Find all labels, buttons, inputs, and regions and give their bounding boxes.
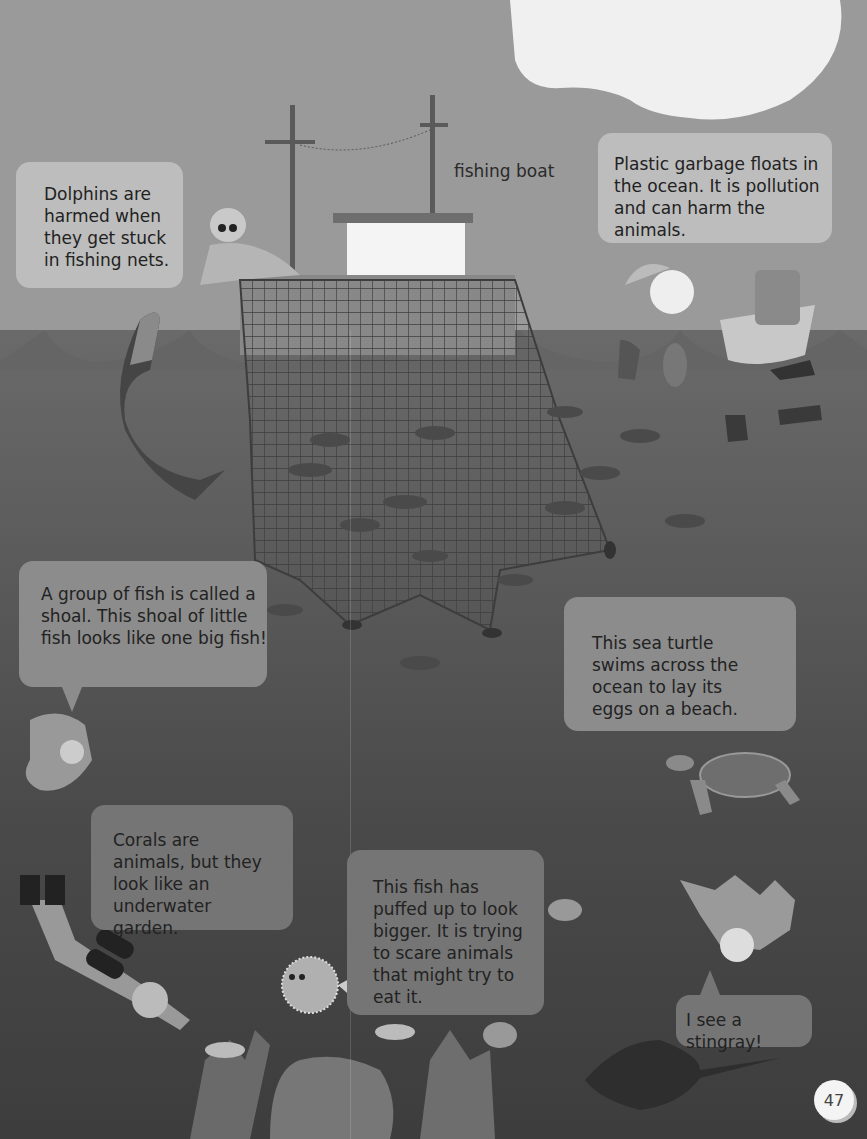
fishing-boat-label: fishing boat: [454, 161, 554, 181]
page-fold: [350, 330, 351, 1139]
stingray-bubble-tail: [700, 970, 720, 995]
plastic-bubble: Plastic garbage floats in the ocean. It …: [598, 133, 832, 243]
pufferfish-text: This fish has puffed up to look bigger. …: [373, 877, 523, 1007]
dolphins-bubble: Dolphins are harmed when they get stuck …: [16, 162, 183, 288]
dolphins-text: Dolphins are harmed when they get stuck …: [44, 184, 169, 270]
turtle-bubble: This sea turtle swims across the ocean t…: [564, 597, 796, 731]
page-number: 47: [814, 1080, 854, 1120]
shoal-bubble-tail: [62, 687, 82, 712]
corals-text: Corals are animals, but they look like a…: [113, 830, 262, 938]
pufferfish-bubble: This fish has puffed up to look bigger. …: [347, 850, 544, 1015]
shoal-text: A group of fish is called a shoal. This …: [41, 584, 267, 648]
turtle-text: This sea turtle swims across the ocean t…: [592, 633, 738, 719]
shoal-bubble: A group of fish is called a shoal. This …: [19, 561, 267, 687]
corals-bubble: Corals are animals, but they look like a…: [91, 805, 293, 930]
plastic-text: Plastic garbage floats in the ocean. It …: [614, 154, 820, 240]
stingray-bubble: I see a stingray!: [676, 995, 812, 1047]
stingray-text: I see a stingray!: [686, 1010, 762, 1052]
